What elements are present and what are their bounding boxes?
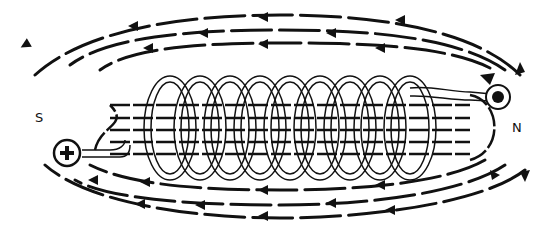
outer-field-lines-bottom xyxy=(45,160,525,218)
field-lines-figure xyxy=(0,0,559,230)
solenoid-diagram: S N xyxy=(0,0,559,230)
negative-terminal xyxy=(486,85,510,109)
outer-field-lines-top xyxy=(35,15,520,75)
south-pole-label: S xyxy=(35,110,43,125)
positive-terminal xyxy=(54,140,80,166)
coil xyxy=(144,76,436,180)
coil-turn xyxy=(384,76,436,180)
north-pole-label: N xyxy=(512,120,522,135)
